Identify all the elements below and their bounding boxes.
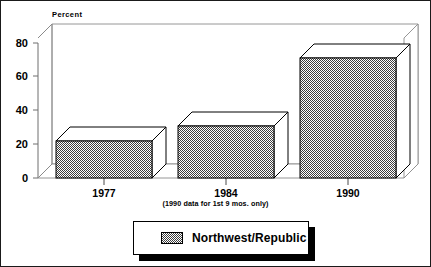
- bar-1990[interactable]: [300, 44, 410, 178]
- x-axis-ticks: [104, 178, 348, 185]
- y-tick-label-80: 80: [6, 38, 28, 49]
- chart-footnote: (1990 data for 1st 9 mos. only): [0, 200, 431, 207]
- y-axis-title: Percent: [52, 11, 82, 19]
- x-tick-label-1990: 1990: [313, 188, 383, 199]
- y-tick-label-40: 40: [6, 105, 28, 116]
- x-tick-label-1984: 1984: [191, 188, 261, 199]
- bar-1977[interactable]: [56, 127, 166, 178]
- y-tick-label-0: 0: [6, 173, 28, 184]
- legend: Northwest/Republic: [133, 221, 323, 263]
- legend-box[interactable]: Northwest/Republic: [133, 221, 309, 255]
- legend-entry-label: Northwest/Republic: [192, 231, 306, 245]
- y-tick-label-20: 20: [6, 139, 28, 150]
- y-tick-label-60: 60: [6, 71, 28, 82]
- legend-swatch-icon: [161, 232, 183, 244]
- y-axis: [33, 24, 52, 178]
- x-tick-label-1977: 1977: [69, 188, 139, 199]
- bar-1984[interactable]: [178, 112, 288, 178]
